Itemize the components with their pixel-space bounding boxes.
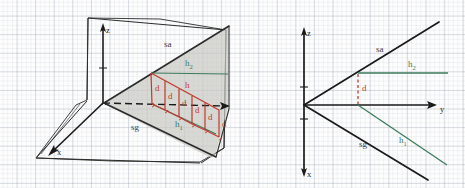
right-h1-label: h1 [399, 136, 407, 147]
left-d-label-1: d [155, 84, 160, 93]
right-h2-sub: 2 [413, 64, 416, 71]
right-sa-label: sa [376, 45, 384, 54]
figure-svg [0, 0, 465, 188]
floor-left-edge [37, 101, 87, 157]
floor-front-edge [36, 158, 200, 163]
left-x-axis [52, 103, 103, 152]
left-sg-label: sg [131, 123, 139, 132]
left-h2-sub: 2 [190, 63, 193, 70]
left-wall-edge [87, 18, 88, 100]
left-sa-label: sa [164, 40, 172, 49]
left-x-axis-label: x [57, 148, 61, 157]
right-d-label: d [362, 84, 367, 93]
right-sg-label: sg [359, 140, 367, 149]
left-d-label-2: d [168, 92, 173, 101]
right-panel-group [300, 22, 448, 180]
left-z-axis-label: z [106, 26, 110, 35]
right-h1-sub: 1 [404, 140, 407, 147]
right-z-axis-label: z [307, 29, 311, 38]
right-y-axis-label: y [440, 105, 444, 114]
left-d-label-6: d [222, 120, 227, 129]
left-d-label-5: d [208, 113, 213, 122]
left-h1-sub: 1 [180, 124, 183, 131]
sa-ray [304, 22, 439, 105]
left-h1-label: h1 [175, 120, 183, 131]
left-h-label: h [185, 81, 190, 90]
right-h2-label: h2 [408, 60, 416, 71]
left-h2-label: h2 [185, 59, 193, 70]
left-panel-group [36, 18, 230, 163]
right-x-axis-label: x [307, 170, 311, 179]
figure-canvas: z x sa sg h2 h1 h d d d d d d z x y sa s… [0, 0, 465, 188]
left-d-label-4: d [195, 106, 200, 115]
left-d-label-3: d [182, 99, 187, 108]
